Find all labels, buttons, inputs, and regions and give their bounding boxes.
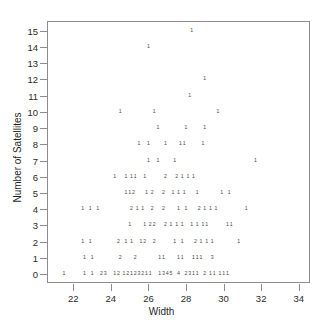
data-point: 1 [143, 223, 146, 228]
data-point: 1 [216, 109, 219, 114]
data-point: 1 [147, 158, 150, 163]
data-point: 1 [218, 271, 221, 276]
data-point: 3 [211, 255, 214, 260]
data-point: 2 [117, 239, 120, 244]
y-axis-tick [40, 96, 47, 97]
data-point: 1 [81, 239, 84, 244]
data-point: 1 [156, 125, 159, 130]
data-point: 1 [113, 174, 116, 179]
data-point: 1 [181, 255, 184, 260]
y-axis-tick [40, 242, 47, 243]
y-axis-tick-label: 10 [0, 106, 38, 117]
y-axis-tick-label: 9 [0, 123, 38, 134]
data-point: 1 [209, 271, 212, 276]
y-axis-tick-label: 15 [0, 25, 38, 36]
data-point: 1 [83, 271, 86, 276]
data-point: 1 [254, 158, 257, 163]
data-point: 2 [153, 239, 156, 244]
data-point: 1 [124, 239, 127, 244]
data-point: 1 [145, 190, 148, 195]
y-axis-tick-label: 13 [0, 58, 38, 69]
y-axis-tick [40, 225, 47, 226]
y-axis-tick [40, 63, 47, 64]
data-point: 1 [200, 239, 203, 244]
data-point: 1 [147, 142, 150, 147]
data-point: 1 [222, 271, 225, 276]
data-point: 1 [124, 190, 127, 195]
data-point: 1 [175, 223, 178, 228]
data-point: 1 [139, 239, 142, 244]
data-point: 4 [177, 271, 180, 276]
y-axis-tick [40, 274, 47, 275]
x-axis-tick [73, 284, 74, 291]
data-point: 1 [138, 142, 141, 147]
x-axis-tick-label: 26 [128, 293, 168, 304]
data-point: 1 [153, 109, 156, 114]
data-point: 1 [96, 207, 99, 212]
data-point: 1 [226, 223, 229, 228]
data-point: 1 [220, 190, 223, 195]
data-point: 2 [194, 239, 197, 244]
data-point: 1 [145, 271, 148, 276]
data-point: 2 [126, 271, 129, 276]
data-point: 1 [201, 142, 204, 147]
data-point: 3 [104, 271, 107, 276]
y-axis-tick-label: 7 [0, 155, 38, 166]
data-point: 1 [179, 142, 182, 147]
data-point: 1 [181, 174, 184, 179]
x-axis-tick-label: 28 [166, 293, 206, 304]
data-point: 1 [186, 174, 189, 179]
data-point: 2 [162, 190, 165, 195]
x-axis-tick-label: 34 [279, 293, 319, 304]
y-axis-tick-label: 11 [0, 90, 38, 101]
x-axis-tick [148, 284, 149, 291]
data-point: 2 [164, 223, 167, 228]
data-point: 1 [192, 255, 195, 260]
data-point: 1 [192, 271, 195, 276]
data-point: 1 [141, 207, 144, 212]
data-point: 1 [164, 142, 167, 147]
data-point: 1 [147, 44, 150, 49]
data-point: 2 [143, 239, 146, 244]
y-axis-tick [40, 47, 47, 48]
data-point: 1 [113, 271, 116, 276]
data-point: 1 [124, 174, 127, 179]
data-point: 1 [130, 239, 133, 244]
y-axis-tick-label: 0 [0, 269, 38, 280]
data-point: 1 [130, 271, 133, 276]
data-point: 2 [149, 223, 152, 228]
data-point: 3 [188, 271, 191, 276]
data-point: 1 [177, 255, 180, 260]
y-axis-tick-label: 8 [0, 139, 38, 150]
y-axis-tick [40, 161, 47, 162]
data-point: 1 [190, 28, 193, 33]
data-point: 1 [128, 190, 131, 195]
data-point: 2 [164, 174, 167, 179]
data-point: 1 [130, 174, 133, 179]
x-axis-tick [111, 284, 112, 291]
data-point: 1 [177, 190, 180, 195]
data-point: 1 [188, 93, 191, 98]
data-point: 1 [203, 125, 206, 130]
data-point: 1 [228, 190, 231, 195]
plot-data-area: 1111111111111111111111111221111121221111… [47, 21, 310, 283]
data-point: 1 [183, 142, 186, 147]
data-point: 1 [185, 125, 188, 130]
data-point: 2 [151, 190, 154, 195]
data-point: 1 [211, 239, 214, 244]
y-axis-tick-label: 4 [0, 204, 38, 215]
x-axis-tick-label: 24 [91, 293, 131, 304]
data-point: 1 [143, 174, 146, 179]
data-point: 2 [185, 271, 188, 276]
y-axis-tick-label: 12 [0, 74, 38, 85]
data-point: 2 [130, 207, 133, 212]
y-axis-tick [40, 177, 47, 178]
data-point: 3 [138, 271, 141, 276]
data-point: 1 [158, 255, 161, 260]
data-point: 2 [117, 271, 120, 276]
data-point: 1 [119, 109, 122, 114]
y-axis-tick-label: 6 [0, 171, 38, 182]
data-point: 1 [196, 223, 199, 228]
data-point: 1 [181, 239, 184, 244]
y-axis-tick [40, 79, 47, 80]
